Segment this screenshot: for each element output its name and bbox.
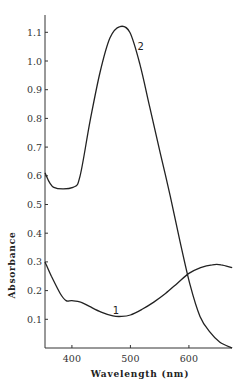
y-tick-label: 0.5 (27, 199, 42, 210)
curves: 12 (45, 26, 232, 348)
curve-2 (45, 26, 232, 348)
y-tick-label: 0.2 (27, 285, 42, 296)
x-tick-label: 400 (63, 353, 81, 364)
y-tick-label: 0.7 (27, 142, 42, 153)
y-tick-label: 1.0 (27, 56, 42, 67)
curve-label-1: 1 (113, 305, 119, 316)
curve-label-2: 2 (137, 41, 143, 52)
y-tick-label: 0.6 (27, 170, 42, 181)
y-tick-label: 0.4 (27, 228, 42, 239)
y-tick-label: 0.9 (27, 84, 42, 95)
x-tick-label: 600 (180, 353, 198, 364)
y-tick-label: 0.1 (27, 314, 42, 325)
y-tick-label: 0.3 (27, 256, 42, 267)
x-tick-label: 500 (121, 353, 139, 364)
absorbance-chart: 0.10.20.30.40.50.60.70.80.91.01.1 400500… (0, 0, 242, 392)
y-tick-label: 0.8 (27, 113, 42, 124)
x-axis-title: Wavelength (nm) (90, 369, 190, 379)
y-axis-title: Absorbance (7, 232, 17, 300)
axes (45, 15, 232, 348)
curve-1 (45, 262, 232, 317)
y-tick-label: 1.1 (27, 27, 42, 38)
